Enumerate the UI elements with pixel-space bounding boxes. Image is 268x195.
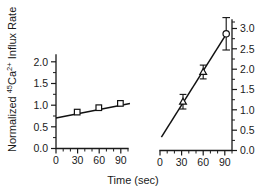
- left-ylabel-0: 0.0: [33, 142, 48, 154]
- left-marker-0: [74, 109, 80, 115]
- left-ylabel-2: 1.0: [33, 99, 48, 111]
- right-ylabel-6: 3.0: [240, 22, 255, 34]
- y-axis-title-text: Normalized 45Ca2+ Influx Rate: [5, 7, 18, 152]
- right-ylabel-0: 0.0: [240, 144, 255, 156]
- chart-svg: Normalized 45Ca2+ Influx Rate Time (sec): [0, 0, 268, 195]
- right-ylabel-2: 1.0: [240, 104, 255, 116]
- right-xlabel-3: 90: [219, 156, 231, 168]
- left-marker-2: [118, 101, 124, 107]
- left-xlabel-0: 0: [53, 154, 59, 166]
- right-marker-2: [223, 31, 229, 37]
- y-axis-title: Normalized 45Ca2+ Influx Rate: [5, 7, 18, 152]
- right-xlabel-2: 60: [197, 156, 209, 168]
- x-axis-title: Time (sec): [107, 174, 159, 186]
- right-ylabel-4: 2.0: [240, 63, 255, 75]
- left-ylabel-1: 0.5: [33, 121, 48, 133]
- left-ylabel-4: 2.0: [33, 56, 48, 68]
- figure-container: Normalized 45Ca2+ Influx Rate Time (sec): [0, 0, 268, 195]
- right-ylabel-1: 0.5: [240, 124, 255, 136]
- left-ylabel-3: 1.5: [33, 77, 48, 89]
- left-xlabel-1: 30: [72, 154, 84, 166]
- left-xlabel-2: 60: [93, 154, 105, 166]
- y-title-suffix: Influx Rate: [6, 7, 18, 63]
- y-title-sup-45: 45: [5, 85, 14, 93]
- right-ylabel-3: 1.5: [240, 83, 255, 95]
- right-ylabel-5: 2.5: [240, 43, 255, 55]
- right-xlabel-1: 30: [176, 156, 188, 168]
- right-xlabel-0: 0: [157, 156, 163, 168]
- left-marker-1: [96, 105, 102, 111]
- y-title-prefix: Normalized: [6, 93, 18, 152]
- left-xlabel-3: 90: [115, 154, 127, 166]
- x-axis-title-text: Time (sec): [107, 174, 159, 186]
- y-title-ca: Ca: [6, 70, 18, 85]
